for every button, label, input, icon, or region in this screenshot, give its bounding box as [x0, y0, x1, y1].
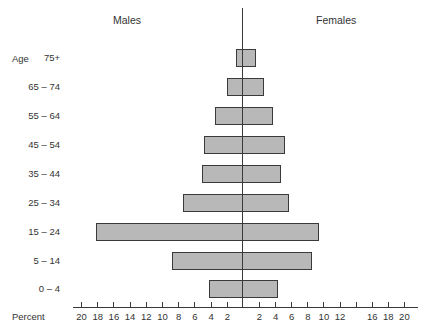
population-bar — [183, 194, 289, 212]
x-tick — [227, 302, 228, 307]
x-tick-label: 20 — [76, 311, 87, 322]
population-bar — [204, 136, 285, 154]
x-tick — [388, 302, 389, 307]
x-tick — [291, 302, 292, 307]
x-axis-line — [73, 307, 418, 308]
age-label: 35 – 44 — [28, 168, 60, 180]
x-tick — [130, 302, 131, 307]
x-tick — [275, 302, 276, 307]
x-tick — [323, 302, 324, 307]
x-tick-label: 16 — [367, 311, 378, 322]
x-tick-label: 8 — [176, 311, 181, 322]
x-tick — [356, 302, 357, 307]
x-tick — [340, 302, 341, 307]
x-tick-label: 18 — [383, 311, 394, 322]
percent-axis-title: Percent — [12, 311, 45, 322]
x-tick-label: 4 — [208, 311, 213, 322]
x-tick — [162, 302, 163, 307]
x-tick — [259, 302, 260, 307]
x-tick — [194, 302, 195, 307]
x-tick-label: 10 — [319, 311, 330, 322]
x-tick-label: 2 — [225, 311, 230, 322]
x-tick-label: 6 — [192, 311, 197, 322]
x-tick — [307, 302, 308, 307]
x-tick-label: 16 — [109, 311, 120, 322]
females-header: Females — [316, 14, 356, 26]
x-tick-label: 20 — [399, 311, 410, 322]
x-tick — [81, 302, 82, 307]
age-axis-title: Age — [12, 53, 29, 65]
x-tick — [97, 302, 98, 307]
x-tick-label: 12 — [141, 311, 152, 322]
x-tick-label: 4 — [273, 311, 278, 322]
age-label: 65 – 74 — [28, 81, 60, 93]
x-tick-label: 8 — [305, 311, 310, 322]
x-tick-label: 18 — [92, 311, 103, 322]
x-tick — [211, 302, 212, 307]
age-label: 0 – 4 — [39, 283, 60, 295]
x-tick — [372, 302, 373, 307]
males-header: Males — [113, 14, 141, 26]
x-tick — [146, 302, 147, 307]
x-tick-label: 12 — [335, 311, 346, 322]
x-tick — [113, 302, 114, 307]
population-bar — [209, 280, 278, 298]
age-label: 25 – 34 — [28, 197, 60, 209]
center-axis-line — [242, 8, 243, 308]
population-bar — [215, 107, 273, 125]
age-label: 5 – 14 — [34, 255, 60, 267]
x-tick-label: 10 — [157, 311, 168, 322]
x-tick — [178, 302, 179, 307]
x-tick-label: 6 — [289, 311, 294, 322]
age-label: 15 – 24 — [28, 226, 60, 238]
age-label: 45 – 54 — [28, 139, 60, 151]
x-tick — [404, 302, 405, 307]
population-bar — [96, 223, 320, 241]
age-label: 75+ — [44, 52, 60, 64]
x-tick-label: 2 — [257, 311, 262, 322]
age-label: 55 – 64 — [28, 110, 60, 122]
x-tick-label: 14 — [125, 311, 136, 322]
population-bar — [227, 78, 264, 96]
population-bar — [236, 49, 256, 67]
